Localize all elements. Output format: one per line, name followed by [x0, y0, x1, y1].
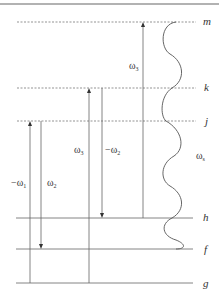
transition-neg-omega1-label: −ω1: [11, 178, 26, 189]
level-k-label: k: [204, 82, 209, 93]
signal-omega-s-wave: [162, 22, 183, 249]
arrow-up-icon: [87, 88, 91, 93]
transition-omega3-right-label: ω3: [129, 61, 139, 72]
transition-omega2-label: ω2: [47, 178, 57, 189]
transition-neg-omega2-label: −ω2: [105, 145, 120, 156]
level-j-label: j: [205, 116, 208, 127]
arrow-down-icon: [100, 213, 104, 218]
level-f-label: f: [204, 244, 207, 255]
level-g-label: g: [203, 278, 209, 289]
arrow-up-icon: [28, 121, 32, 126]
arrow-down-icon: [39, 244, 43, 249]
arrow-up-icon: [141, 22, 145, 27]
transition-omega3-left-label: ω3: [74, 145, 84, 156]
level-m-label: m: [203, 16, 211, 27]
level-h-label: h: [203, 212, 209, 223]
signal-omega-s-label: ωs: [196, 151, 205, 162]
